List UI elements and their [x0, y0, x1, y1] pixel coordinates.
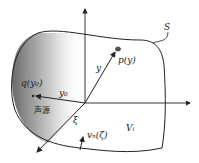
- normal-velocity-label: vₙ(ζ): [87, 130, 108, 140]
- source-point-label: q(y₀): [21, 78, 43, 88]
- source-region-shading: [12, 33, 85, 143]
- vector-xi-label: ξ: [73, 115, 79, 125]
- source-region-label: 声源: [34, 105, 50, 115]
- surface-label: S: [164, 22, 170, 32]
- vector-y0-label: y₀: [58, 88, 68, 98]
- source-point-q: [32, 95, 34, 97]
- vector-y-label: y: [95, 63, 102, 73]
- field-point-p: [115, 47, 120, 51]
- vector-y: [85, 52, 115, 103]
- volume-label: Vᵢ: [126, 123, 134, 133]
- point-p-label: p(y): [118, 55, 136, 65]
- surface-leader-line: [153, 32, 168, 43]
- acoustic-domain-diagram: S p(y) y q(y₀) y₀ 声源 ξ vₙ(ζ) Vᵢ: [0, 0, 199, 163]
